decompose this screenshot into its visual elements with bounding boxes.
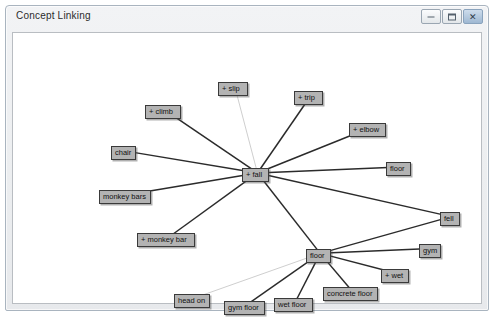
app-window: Concept Linking ✕ + slip+ trip+ climb+ e… <box>5 5 489 311</box>
concept-node-wet[interactable]: + wet <box>381 269 409 283</box>
concept-edge-fall-monkey_bar <box>168 173 257 238</box>
concept-node-fall[interactable]: + fall <box>242 168 269 182</box>
window-title: Concept Linking <box>16 10 91 21</box>
concept-edge-fall-trip <box>257 97 310 173</box>
concept-node-elbow[interactable]: + elbow <box>349 123 386 137</box>
concept-edge-fall-floor_right <box>257 167 399 173</box>
concept-node-gym[interactable]: gym <box>419 244 441 258</box>
concept-node-concrete_floor[interactable]: concrete floor <box>323 287 378 301</box>
concept-node-monkey_bars[interactable]: monkey bars <box>99 190 151 204</box>
maximize-icon <box>448 13 456 20</box>
minimize-icon <box>428 16 435 17</box>
close-button[interactable]: ✕ <box>463 9 483 24</box>
maximize-button[interactable] <box>442 9 462 24</box>
window-controls: ✕ <box>421 9 483 24</box>
concept-node-climb[interactable]: + climb <box>145 105 181 119</box>
concept-node-trip[interactable]: + trip <box>294 91 323 105</box>
concept-node-head_on[interactable]: head on <box>174 294 210 308</box>
minimize-button[interactable] <box>421 9 441 24</box>
concept-node-chair[interactable]: chair <box>111 146 136 160</box>
concept-node-floor_right[interactable]: floor <box>386 162 411 176</box>
concept-node-floor_hub[interactable]: floor <box>306 249 331 263</box>
concept-edge-fall-chair <box>126 151 257 173</box>
title-bar[interactable]: Concept Linking ✕ <box>6 6 488 28</box>
concept-map-canvas[interactable]: + slip+ trip+ climb+ elbowchair+ fallflo… <box>12 32 482 304</box>
concept-node-wet_floor[interactable]: wet floor <box>274 298 313 312</box>
concept-node-fell[interactable]: fell <box>440 212 460 226</box>
close-icon: ✕ <box>469 12 478 21</box>
concept-node-slip[interactable]: + slip <box>218 82 248 96</box>
concept-node-gym_floor[interactable]: gym floor <box>224 301 265 315</box>
concept-node-monkey_bar[interactable]: + monkey bar <box>137 233 195 247</box>
